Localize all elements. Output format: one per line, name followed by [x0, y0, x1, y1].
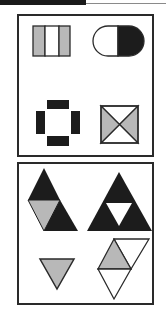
- half-filled-pill-figure: [93, 26, 144, 56]
- header-bar: [0, 0, 86, 5]
- inverted-gray-triangle-figure: [40, 259, 74, 289]
- option-figures: [19, 164, 156, 307]
- header-divider: [86, 3, 166, 4]
- question-panel: [17, 14, 154, 157]
- triangle-rhombus-figure: [98, 239, 149, 299]
- hollow-cross-figure: [36, 100, 80, 146]
- triangle-parallelogram-figure: [28, 168, 78, 231]
- sierpinski-triangle-figure: [87, 172, 152, 231]
- options-panel: [17, 162, 154, 305]
- question-figures: [19, 16, 156, 159]
- striped-rectangle-figure: [33, 26, 70, 56]
- x-square-figure: [101, 106, 138, 143]
